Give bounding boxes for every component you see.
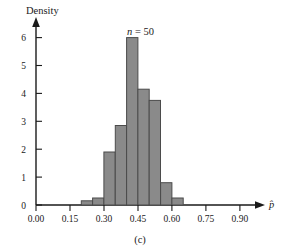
y-tick-label: 3 xyxy=(21,117,26,127)
y-axis-arrowhead xyxy=(32,17,40,27)
bars-group xyxy=(81,38,183,205)
bar xyxy=(127,38,138,205)
figure-caption: (c) xyxy=(134,234,146,246)
y-tick-label: 6 xyxy=(21,33,26,43)
bar xyxy=(149,100,160,205)
x-tick-group: 0.00 0.15 0.30 0.45 0.60 0.75 0.90 xyxy=(28,205,249,224)
x-tick-label: 0.75 xyxy=(198,214,215,224)
x-tick-label: 0.90 xyxy=(232,214,249,224)
figure-container: Density n = 50 p̂ 0 1 2 3 4 xyxy=(0,0,290,249)
sample-size-annotation: n = 50 xyxy=(127,26,154,37)
bar xyxy=(104,152,115,205)
x-tick-label: 0.45 xyxy=(130,214,147,224)
y-axis-title: Density xyxy=(26,5,59,16)
x-axis-title: p̂ xyxy=(268,199,274,210)
sample-size-value: = 50 xyxy=(132,26,154,37)
bar xyxy=(138,89,149,205)
x-tick-label: 0.60 xyxy=(164,214,181,224)
x-tick-label: 0.15 xyxy=(62,214,79,224)
bar xyxy=(172,198,183,205)
y-tick-label: 1 xyxy=(21,173,26,183)
y-tick-label: 2 xyxy=(21,145,26,155)
bar xyxy=(161,183,172,205)
bar xyxy=(93,198,104,205)
y-tick-label: 5 xyxy=(21,61,26,71)
y-tick-group: 0 1 2 3 4 5 6 xyxy=(21,33,42,210)
bar xyxy=(81,201,92,205)
bar xyxy=(115,126,126,206)
x-tick-label: 0.30 xyxy=(96,214,113,224)
x-axis-arrowhead xyxy=(255,201,265,209)
y-tick-label: 4 xyxy=(21,89,26,99)
x-tick-label: 0.00 xyxy=(28,214,45,224)
histogram-chart: Density n = 50 p̂ 0 1 2 3 4 xyxy=(0,0,290,249)
y-tick-label: 0 xyxy=(21,201,26,211)
